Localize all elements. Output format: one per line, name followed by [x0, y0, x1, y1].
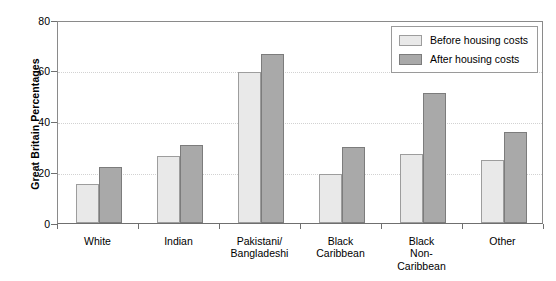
x-axis-labels: WhiteIndianPakistani/BangladeshiBlackCar…	[57, 235, 543, 281]
x-tick-label: Indian	[138, 235, 219, 247]
x-tick-mark-2	[219, 224, 220, 229]
bar	[180, 145, 203, 223]
legend-swatch-before-icon	[399, 35, 422, 46]
bar	[342, 147, 365, 223]
bar	[76, 184, 99, 223]
y-tick-label-40: 40	[20, 116, 50, 128]
x-tick-mark-0	[57, 224, 58, 229]
x-tick-mark-3	[300, 224, 301, 229]
x-tick-label: Other	[462, 235, 543, 247]
bar	[423, 93, 446, 223]
x-tick-label: Pakistani/Bangladeshi	[219, 235, 300, 260]
x-tick-label: BlackNon-Caribbean	[381, 235, 462, 272]
bar	[319, 174, 342, 223]
legend-swatch-after-icon	[399, 54, 422, 65]
bar-group	[301, 22, 382, 223]
bar-group	[139, 22, 220, 223]
bar	[481, 160, 504, 223]
x-tick-mark-6	[543, 224, 544, 229]
bar	[99, 167, 122, 223]
x-tick-mark-5	[462, 224, 463, 229]
legend-item-after: After housing costs	[399, 52, 528, 66]
x-tick-mark-4	[381, 224, 382, 229]
bar	[400, 154, 423, 223]
y-tick-label-80: 80	[20, 15, 50, 27]
bar	[157, 156, 180, 223]
x-tick-label: White	[57, 235, 138, 247]
bar	[238, 72, 261, 223]
y-tick-label-0: 0	[20, 218, 50, 230]
bar-group	[220, 22, 301, 223]
legend-item-before: Before housing costs	[399, 33, 528, 47]
y-tick-label-60: 60	[20, 65, 50, 77]
bar-chart: Great Britain Percentages 80 60 40 20 0 …	[0, 0, 556, 281]
x-tick-label: BlackCaribbean	[300, 235, 381, 260]
bar	[261, 54, 284, 223]
legend-label-after: After housing costs	[430, 53, 519, 65]
legend-label-before: Before housing costs	[430, 34, 528, 46]
legend: Before housing costs After housing costs	[391, 26, 538, 73]
bar	[504, 132, 527, 223]
x-tick-mark-1	[138, 224, 139, 229]
y-tick-label-20: 20	[20, 167, 50, 179]
bar-group	[58, 22, 139, 223]
